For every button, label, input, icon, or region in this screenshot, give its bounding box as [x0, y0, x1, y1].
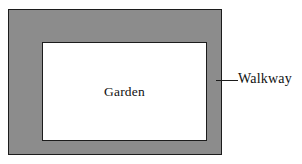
walkway-region: Garden [8, 9, 222, 155]
walkway-label: Walkway [238, 71, 292, 88]
garden-region: Garden [42, 42, 207, 141]
walkway-leader-line [216, 80, 238, 81]
geometry-diagram: Garden Walkway [0, 0, 302, 164]
garden-label: Garden [104, 85, 145, 99]
